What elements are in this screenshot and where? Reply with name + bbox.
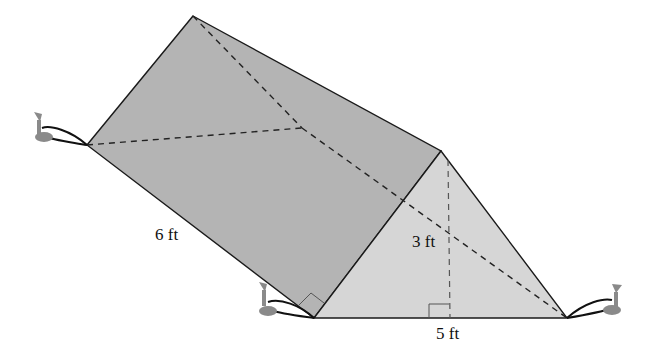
height-label: 3 ft [412, 232, 435, 251]
tent-prism-diagram: 6 ft 3 ft 5 ft [0, 0, 647, 356]
length-label: 6 ft [155, 225, 178, 244]
base-label: 5 ft [436, 324, 459, 343]
